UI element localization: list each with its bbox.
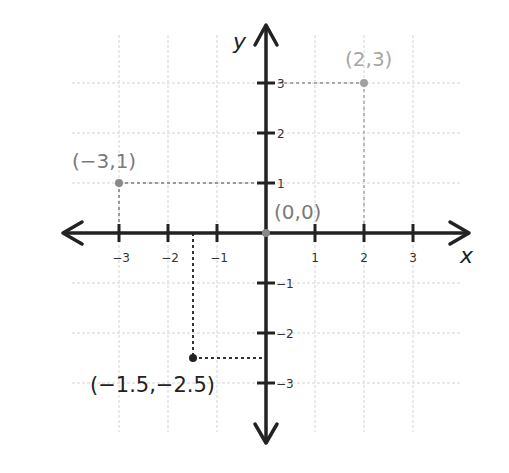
x-tick-label: 1 (311, 251, 319, 265)
y-tick-label: 3 (277, 77, 285, 91)
x-tick-label: 3 (409, 251, 417, 265)
x-tick-label: −2 (161, 251, 179, 265)
data-points (115, 79, 368, 362)
y-tick-label: −1 (276, 277, 294, 291)
point-label-neg1.5-neg2.5: (−1.5,−2.5) (90, 373, 215, 397)
x-tick-label: −1 (210, 251, 228, 265)
point-label-neg3-1: (−3,1) (72, 149, 136, 173)
point-origin (262, 229, 270, 237)
x-tick-label: −3 (112, 251, 130, 265)
point-2-3 (360, 79, 368, 87)
y-tick-label: −2 (276, 327, 294, 341)
point-neg1.5-neg2.5 (189, 354, 197, 362)
coordinate-plane: −3 −2 −1 1 2 3 3 2 1 −1 −2 −3 y x (2,3) … (0, 0, 509, 473)
guide-lines (119, 83, 364, 358)
y-tick-label: 1 (277, 177, 285, 191)
point-label-2-3: (2,3) (345, 47, 392, 71)
point-neg3-1 (115, 179, 123, 187)
y-tick-label: −3 (276, 377, 294, 391)
y-axis-label: y (232, 29, 247, 54)
x-tick-label: 2 (360, 251, 368, 265)
point-label-origin: (0,0) (274, 200, 321, 224)
x-axis-label: x (459, 243, 474, 268)
y-tick-label: 2 (277, 127, 285, 141)
